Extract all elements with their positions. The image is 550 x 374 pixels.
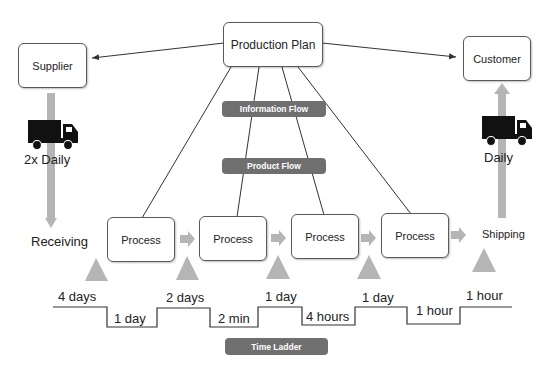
product-flow-tag: Product Flow	[222, 158, 326, 174]
process-box-4[interactable]: Process	[381, 213, 449, 258]
process-label: Process	[213, 233, 253, 245]
process-label: Process	[305, 231, 345, 243]
process-box-1[interactable]: Process	[107, 217, 175, 262]
inventory-time-4: 1 day	[362, 290, 394, 305]
production-plan-box[interactable]: Production Plan	[223, 22, 323, 67]
customer-label: Customer	[473, 53, 521, 65]
inbound-arrow-head	[45, 218, 57, 228]
inventory-triangle-1	[85, 258, 108, 281]
production-plan-label: Production Plan	[231, 38, 316, 52]
process-box-3[interactable]: Process	[291, 214, 359, 259]
outbound-frequency-label: Daily	[484, 150, 513, 165]
inventory-time-3: 1 day	[265, 289, 297, 304]
inbound-frequency-label: 2x Daily	[24, 152, 70, 167]
process-label: Process	[395, 230, 435, 242]
info-line-process-2	[237, 67, 259, 217]
receiving-label: Receiving	[31, 234, 88, 249]
process-time-2: 2 min	[218, 311, 250, 326]
process-label: Process	[121, 234, 161, 246]
inventory-triangle-5	[472, 248, 496, 272]
info-line-process-4	[298, 67, 411, 214]
inventory-triangle-2	[176, 256, 199, 280]
inventory-time-5: 1 hour	[466, 288, 503, 303]
process-box-2[interactable]: Process	[199, 216, 267, 261]
inventory-triangle-3	[266, 255, 290, 279]
inventory-time-2: 2 days	[166, 290, 204, 305]
info-line-customer	[322, 43, 456, 57]
push-arrow-4	[451, 227, 466, 243]
time-ladder-tag: Time Ladder	[225, 338, 328, 355]
info-line-supplier	[92, 43, 224, 58]
shipping-label: Shipping	[482, 228, 525, 240]
supplier-label: Supplier	[32, 60, 72, 72]
push-arrow-3	[361, 230, 376, 246]
information-flow-tag: Information Flow	[222, 101, 326, 117]
process-time-1: 1 day	[114, 311, 146, 326]
process-time-4: 1 hour	[416, 303, 453, 318]
truck-icon-outbound	[482, 116, 532, 146]
inventory-triangle-4	[357, 255, 381, 279]
customer-box[interactable]: Customer	[463, 36, 531, 81]
push-arrow-1	[180, 231, 195, 247]
supplier-box[interactable]: Supplier	[18, 43, 87, 88]
push-arrow-2	[271, 230, 286, 246]
process-time-3: 4 hours	[306, 309, 349, 324]
outbound-arrow-head	[494, 83, 510, 94]
inventory-time-1: 4 days	[58, 289, 96, 304]
info-line-process-3	[282, 67, 324, 215]
info-line-process-1	[142, 67, 231, 218]
